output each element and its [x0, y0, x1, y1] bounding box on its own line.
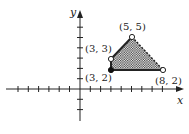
- label-3-3: (3, 3): [85, 43, 112, 54]
- label-8-2: (8, 2): [155, 75, 182, 86]
- x-axis: x: [6, 86, 184, 107]
- y-axis-label: y: [69, 6, 77, 19]
- label-5-5: (5, 5): [119, 21, 146, 32]
- point-5-5: [129, 34, 134, 39]
- label-3-2: (3, 2): [85, 72, 112, 83]
- x-axis-label: x: [177, 94, 184, 107]
- point-3-3: [108, 56, 113, 61]
- x-axis-arrow-icon: [176, 86, 184, 92]
- point-8-2: [160, 67, 165, 72]
- coordinate-plot: x y (5, 5) (3, 3) (3, 2) (8, 2: [0, 0, 189, 134]
- y-axis-arrow-icon: [77, 10, 83, 18]
- y-axis: y: [69, 6, 83, 121]
- feasible-region: [111, 37, 163, 70]
